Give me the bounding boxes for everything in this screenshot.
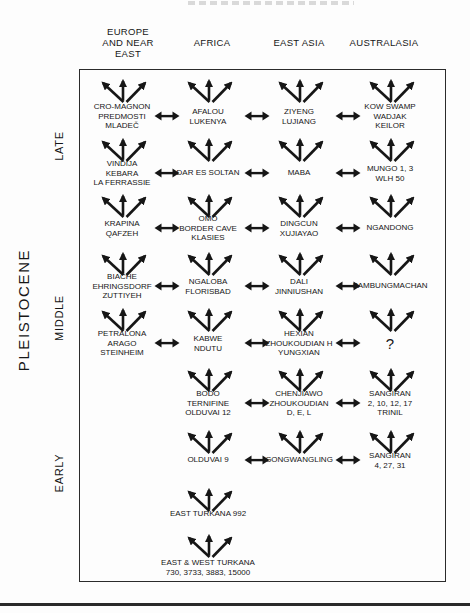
gene-flow-arrow-icon [154,281,180,291]
fossil-site-line: NDUTU [194,343,223,353]
column-header-line: AND NEAR [102,37,154,48]
era-label-early: EARLY [53,454,65,493]
fossil-site-label: ZIYENGLUJIANG [282,107,316,126]
fossil-site-line: ZHOUKOUDIAN [269,398,328,408]
fossil-site-line: KABWE [194,334,223,344]
column-header-line: AFRICA [194,37,231,48]
fossil-site-line: KEBARA [94,168,151,178]
dispersal-arrows-icon [358,362,422,392]
fossil-site-line: DALI [275,277,323,287]
fossil-site-line: 730, 3733, 3883, 15000 [161,567,255,577]
fossil-site-line: DAR ES SOLTAN [177,168,240,178]
fossil-site-label: NGALOBAFLORISBAD [185,277,230,296]
epoch-label: PLEISTOCENE [15,249,32,371]
fossil-site-line: CHENJIAWO [269,389,328,399]
fossil-site-line: NGALOBA [185,277,230,287]
dispersal-arrows-icon [90,302,154,332]
fossil-site-line: STEINHEIM [98,348,146,358]
dispersal-arrows-icon [90,188,154,218]
column-header-europe-and-near-east: EUROPE AND NEAR EAST [102,25,154,59]
fossil-site-line: KRAPINA [104,219,139,229]
fossil-site-line: TERNIFINE [185,398,231,408]
gene-flow-arrow-icon [335,338,361,348]
fossil-site-line: TRINIL [368,408,412,418]
fossil-site-line: NGANDONG [366,223,413,233]
fossil-site-label: EAST & WEST TURKANA730, 3733, 3883, 1500… [161,558,255,577]
gene-flow-arrow-icon [244,168,270,178]
fossil-site-label: KABWENDUTU [194,334,223,353]
dispersal-arrows-icon [358,132,422,162]
dispersal-arrows-icon [358,246,422,276]
dispersal-arrows-icon [90,73,154,103]
gene-flow-arrow-icon [244,338,270,348]
fossil-site-line: BODO [185,389,231,399]
fossil-site-line: ZUTTIYEH [92,291,151,301]
gene-flow-arrow-icon [335,281,361,291]
dispersal-arrows-icon [176,362,240,392]
column-header-east-asia: EAST ASIA [273,25,324,59]
fossil-site-label: VINDIJAKEBARALA FERRASSIE [94,159,151,188]
fossil-site-line: LUJIANG [282,116,316,126]
fossil-site-line: SANGIRAN [369,451,411,461]
fossil-site-label: AFALOULUKENYA [190,107,227,126]
dispersal-arrows-icon [358,424,422,454]
fossil-site-line: CRO-MAGNON [94,102,150,112]
gene-flow-arrow-icon [244,281,270,291]
fossil-site-line: JINNIUSHAN [275,286,323,296]
dispersal-arrows-icon [358,188,422,218]
gene-flow-arrow-icon [154,168,180,178]
fossil-site-line: ARAGO [98,338,146,348]
page-rule [0,603,470,606]
fossil-site-label: MABA [288,168,311,178]
dispersal-arrows-icon [267,246,331,276]
figure-canvas: EUROPE AND NEAR EAST AFRICA EAST ASIA AU… [0,0,470,613]
fossil-site-label: MUNGO 1, 3WLH 50 [367,164,413,183]
fossil-site-label: SANGIRAN2, 10, 12, 17TRINIL [368,389,412,418]
fossil-site-label: PETRALONAARAGOSTEINHEIM [98,329,146,358]
column-header-line: AUSTRALASIA [350,37,419,48]
dispersal-arrows-icon [90,132,154,162]
gene-flow-arrow-icon [154,111,180,121]
fossil-site-line: HEXIAN [265,329,332,339]
fossil-site-line: LA FERRASSIE [94,178,151,188]
fossil-site-label: SANGIRAN4, 27, 31 [369,451,411,470]
fossil-site-line: FLORISBAD [185,286,230,296]
gene-flow-arrow-icon [335,111,361,121]
fossil-site-label: DINGCUNXUJIAYAO [280,219,318,238]
dispersal-arrows-icon [358,302,422,332]
fossil-site-line: OLDUVAI 9 [187,455,228,465]
fossil-site-label: KRAPINAQAFZEH [104,219,139,238]
fossil-site-label: ? [386,336,394,351]
dispersal-arrows-icon [267,424,331,454]
era-label-middle: MIDDLE [53,295,65,341]
column-header-africa: AFRICA [194,25,231,59]
fossil-site-line: AFALOU [190,107,227,117]
fossil-site-line: MABA [288,168,311,178]
dispersal-arrows-icon [176,528,240,558]
gene-flow-arrow-icon [244,398,270,408]
era-label-late: LATE [53,131,65,161]
fossil-site-line: 2, 10, 12, 17 [368,398,412,408]
fossil-site-line: BIACHE [92,272,151,282]
fossil-site-line: MUNGO 1, 3 [367,164,413,174]
fossil-site-label: CHENJIAWOZHOUKOUDIAND, E, L [269,389,328,418]
fossil-site-line: SAMBUNGMACHAN [352,281,427,291]
column-header-line: EAST [115,48,141,59]
gene-flow-arrow-icon [335,455,361,465]
fossil-site-label: CRO-MAGNONPREDMOSTIMLADEČ [94,102,150,131]
dispersal-arrows-icon [358,73,422,103]
fossil-site-label: BODOTERNIFINEOLDUVAI 12 [185,389,231,418]
cropped-text-remnant [188,1,354,5]
fossil-site-line: EHRINGSDORF [92,281,151,291]
fossil-site-line: XUJIAYAO [280,228,318,238]
column-header-line: EUROPE [107,26,149,37]
fossil-site-line: EAST & WEST TURKANA [161,558,255,568]
dispersal-arrows-icon [267,362,331,392]
fossil-site-label: OMOBORDER CAVEKLASIES [179,214,237,243]
fossil-site-line: OLDUVAI 12 [185,408,231,418]
fossil-site-label: DALIJINNIUSHAN [275,277,323,296]
fossil-site-label: GONGWANGLING [265,455,333,465]
dispersal-arrows-icon [267,73,331,103]
gene-flow-arrow-icon [154,223,180,233]
fossil-site-line: OMO [179,214,237,224]
